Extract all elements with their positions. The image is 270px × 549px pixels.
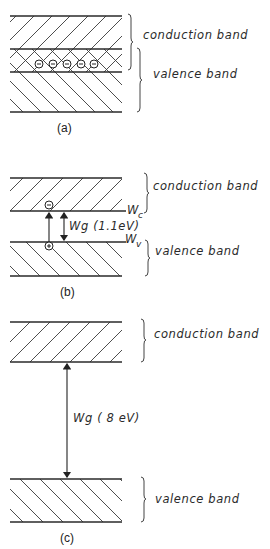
panel-caption: (b) <box>60 285 75 299</box>
wc-subscript: c <box>138 210 143 220</box>
valence-band-hatch <box>0 479 163 522</box>
conduction-band-hatch <box>0 178 143 211</box>
electron-icon <box>35 60 43 68</box>
hole-icon <box>45 242 53 250</box>
conduction-band-label: conduction band <box>143 28 248 42</box>
wc-label: W c <box>127 203 143 220</box>
conduction-band-hatch <box>0 322 150 362</box>
electron-icon <box>63 60 71 68</box>
panel-b: Wg (1.1eV) W c W v conduction band valen… <box>0 173 258 299</box>
electron-icon <box>90 60 98 68</box>
conduction-band-brace <box>141 319 146 362</box>
valence-band-label: valence band <box>155 244 240 258</box>
conduction-band-brace <box>128 14 133 70</box>
valence-band-hatch <box>0 242 140 276</box>
panel-caption: (a) <box>57 121 72 135</box>
panel-c: Wg ( 8 eV) conduction band valence band … <box>0 319 259 545</box>
valence-band-brace <box>145 240 150 276</box>
wv-subscript: v <box>136 239 142 249</box>
valence-band-brace <box>137 48 142 112</box>
panel-a: conduction band valence band (a) <box>0 14 248 135</box>
band-gap-label: Wg (1.1eV) <box>69 219 140 233</box>
band-diagram-figure: conduction band valence band (a) <box>0 0 270 549</box>
electron-icon <box>45 201 53 209</box>
valence-band-label: valence band <box>155 492 240 506</box>
electron-icon <box>49 60 57 68</box>
conduction-band-label: conduction band <box>154 327 259 341</box>
valence-band-label: valence band <box>153 67 238 81</box>
electron-icon <box>77 60 85 68</box>
band-gap-label: Wg ( 8 eV) <box>73 411 140 425</box>
conduction-band-brace <box>144 173 149 213</box>
valence-band-brace <box>141 477 146 522</box>
conduction-band-label: conduction band <box>153 179 258 193</box>
wv-label: W v <box>125 232 142 249</box>
panel-caption: (c) <box>60 531 74 545</box>
